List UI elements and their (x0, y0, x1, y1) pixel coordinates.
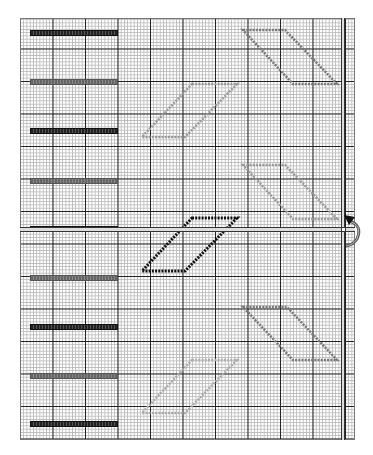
parallelogram-3[interactable] (243, 165, 337, 219)
parallelogram-5[interactable] (243, 307, 337, 360)
parallelogram-4[interactable] (142, 218, 237, 271)
parallelogram-6[interactable] (142, 360, 237, 413)
parallelogram-1[interactable] (243, 30, 337, 84)
rotate-arrow-icon[interactable] (343, 213, 365, 249)
parallelogram-2[interactable] (142, 84, 237, 137)
horizontal-guide-line[interactable] (20, 227, 355, 232)
